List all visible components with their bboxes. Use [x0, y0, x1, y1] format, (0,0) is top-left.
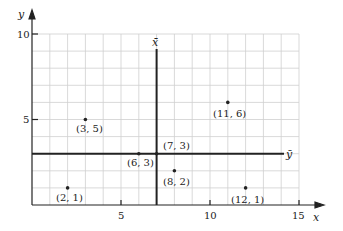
point-label: (7, 3) — [163, 140, 190, 151]
y-tick-5: 5 — [23, 114, 29, 125]
point-label: (11, 6) — [213, 108, 246, 119]
x-axis-label: x — [313, 211, 320, 224]
xbar-label: x̄ — [152, 36, 159, 49]
x-tick-15: 15 — [292, 210, 305, 221]
x-tick-5: 5 — [118, 210, 124, 221]
scatter-plot: y x x̄ ȳ 5 10 15 5 10 (2, 1) (3, 5) (6, … — [0, 0, 343, 231]
ybar-label: ȳ — [285, 148, 293, 161]
point-label: (3, 5) — [76, 123, 103, 134]
y-tick-10: 10 — [17, 29, 30, 40]
y-axis-label: y — [17, 8, 25, 21]
x-axis-arrow-icon — [315, 202, 324, 208]
point-label: (6, 3) — [127, 157, 154, 168]
point-label: (2, 1) — [56, 192, 83, 203]
y-axis-arrow-icon — [29, 10, 35, 19]
x-tick-10: 10 — [204, 210, 217, 221]
reference-lines — [32, 49, 284, 205]
point-label: (8, 2) — [163, 176, 190, 187]
point-label: (12, 1) — [231, 194, 264, 205]
